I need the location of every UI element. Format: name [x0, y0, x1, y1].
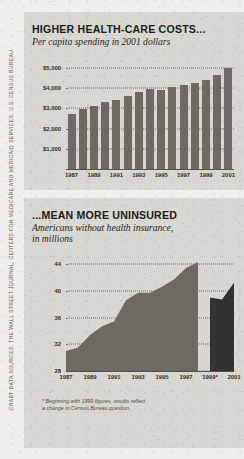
bar: [124, 96, 132, 169]
area-segment-revised: [210, 283, 234, 371]
x-axis-tick-label: 1987: [59, 374, 72, 380]
uninsured-title: ...MEAN MORE UNINSURED: [32, 209, 238, 221]
bar: [157, 90, 165, 169]
bar: [191, 83, 199, 169]
bar: [180, 85, 188, 169]
x-axis-tick-label: 1997: [177, 172, 190, 178]
chart-source-credit: CHART DATA SOURCES: THE WALL STREET JOUR…: [0, 0, 23, 459]
bar: [168, 87, 176, 169]
bar: [213, 75, 221, 169]
x-axis-tick-label: 1999: [199, 172, 212, 178]
x-axis-line: [66, 169, 234, 170]
costs-subtitle: Per capita spending in 2001 dollars: [32, 36, 238, 47]
area-chart-plot: 28323640441987198919911993199519971999*2…: [32, 250, 236, 384]
x-axis-tick-label: 2001: [227, 374, 240, 380]
charts-container: HIGHER HEALTH-CARE COSTS... Per capita s…: [24, 0, 244, 459]
y-axis-tick-label: $2,000: [32, 126, 61, 132]
bar: [90, 106, 98, 169]
bar-chart-plot: $1,000$2,000$3,000$4,000$5,0001987198919…: [32, 58, 236, 182]
uninsured-subtitle: Americans without health insurance,in mi…: [32, 222, 238, 245]
bar: [202, 80, 210, 169]
x-axis-line: [66, 371, 234, 372]
costs-title: HIGHER HEALTH-CARE COSTS...: [32, 23, 238, 35]
chart-source-credit-text: CHART DATA SOURCES: THE WALL STREET JOUR…: [8, 49, 14, 410]
area-series-group: [32, 250, 236, 384]
bar: [112, 100, 120, 169]
x-axis-tick-label: 1995: [155, 172, 168, 178]
bar: [101, 102, 109, 169]
bar: [68, 114, 76, 170]
y-axis-tick-label: $5,000: [32, 65, 61, 71]
bar: [79, 109, 87, 169]
uninsured-footnote: * Beginning with 1999 figures, results r…: [42, 398, 238, 412]
x-axis-tick-label: 1987: [65, 172, 78, 178]
y-axis-tick-label: $3,000: [32, 105, 61, 111]
x-axis-tick-label: 1993: [132, 172, 145, 178]
x-axis-tick-label: 1997: [179, 374, 192, 380]
x-axis-tick-label: 1989: [87, 172, 100, 178]
x-axis-tick-label: 2001: [222, 172, 235, 178]
gridline: [66, 68, 234, 69]
panel-uninsured: ...MEAN MORE UNINSURED Americans without…: [24, 198, 244, 448]
panel-health-care-costs: HIGHER HEALTH-CARE COSTS... Per capita s…: [24, 12, 244, 190]
bar: [135, 92, 143, 169]
bar: [224, 68, 232, 169]
x-axis-tick-label: 1991: [107, 374, 120, 380]
x-axis-tick-label: 1995: [155, 374, 168, 380]
y-axis-tick-label: $4,000: [32, 85, 61, 91]
x-axis-tick-label: 1993: [131, 374, 144, 380]
costs-header: HIGHER HEALTH-CARE COSTS... Per capita s…: [32, 23, 238, 47]
y-axis-tick-label: $1,000: [32, 146, 61, 152]
x-axis-tick-label: 1999*: [202, 374, 217, 380]
bar: [146, 89, 154, 169]
x-axis-tick-label: 1989: [83, 374, 96, 380]
area-segment-pre-1999: [66, 262, 198, 371]
x-axis-tick-label: 1991: [110, 172, 123, 178]
uninsured-header: ...MEAN MORE UNINSURED Americans without…: [32, 209, 238, 245]
